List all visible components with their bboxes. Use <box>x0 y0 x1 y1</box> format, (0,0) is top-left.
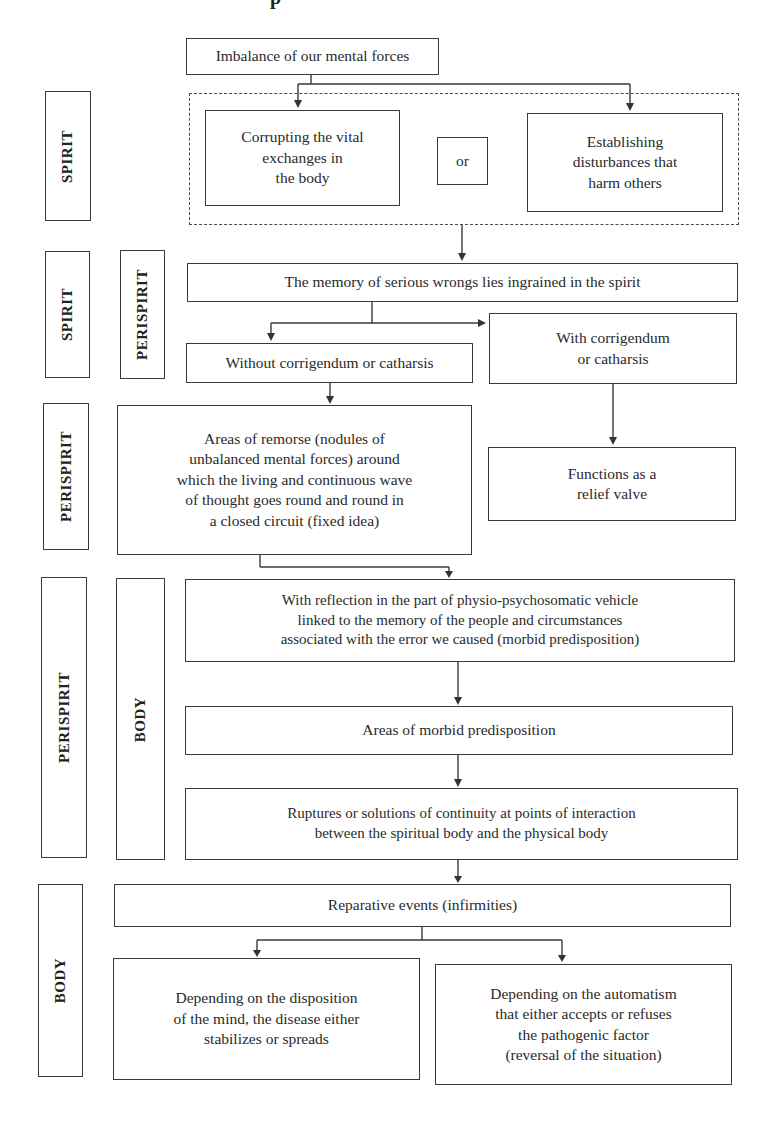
node-automatism: Depending on the automatism that either … <box>435 964 732 1085</box>
node-text-line: Corrupting the vital <box>241 127 363 147</box>
node-establishing: Establishing disturbances that harm othe… <box>527 113 723 212</box>
node-text-line: or catharsis <box>577 349 648 369</box>
layer-label-perispirit: PERISPIRIT <box>41 577 87 858</box>
page-heading-fragment: p <box>270 0 281 9</box>
node-text-line: the pathogenic factor <box>518 1025 649 1045</box>
node-ruptures: Ruptures or solutions of continuity at p… <box>185 788 738 860</box>
node-reparative-events: Reparative events (infirmities) <box>114 884 731 927</box>
node-with-corrigendum: With corrigendum or catharsis <box>489 313 737 384</box>
node-text-line: relief valve <box>577 484 647 504</box>
node-areas-of-remorse: Areas of remorse (nodules of unbalanced … <box>117 405 472 555</box>
node-text-line: that either accepts or refuses <box>495 1004 671 1024</box>
layer-label-spirit: SPIRIT <box>45 251 90 378</box>
layer-label-perispirit: PERISPIRIT <box>43 403 89 550</box>
node-text-line: associated with the error we caused (mor… <box>281 630 640 650</box>
node-text-line: exchanges in <box>262 148 342 168</box>
layer-label-text: SPIRIT <box>59 288 76 341</box>
layer-label-body: BODY <box>38 884 83 1077</box>
layer-label-text: PERISPIRIT <box>56 672 73 763</box>
node-text: Reparative events (infirmities) <box>328 895 517 915</box>
node-text-line: Areas of remorse (nodules of <box>204 429 385 449</box>
node-disposition-of-mind: Depending on the disposition of the mind… <box>113 958 420 1080</box>
node-morbid-predisposition: Areas of morbid predisposition <box>185 706 733 755</box>
node-text-line: of thought goes round and round in <box>185 490 404 510</box>
layer-label-body: BODY <box>116 578 165 860</box>
layer-label-text: PERISPIRIT <box>58 431 75 522</box>
node-text-line: (reversal of the situation) <box>505 1045 661 1065</box>
node-text-line: Depending on the automatism <box>490 984 676 1004</box>
node-imbalance: Imbalance of our mental forces <box>186 38 439 75</box>
node-or: or <box>437 137 488 185</box>
layer-label-perispirit: PERISPIRIT <box>120 250 165 379</box>
node-corrupting: Corrupting the vital exchanges in the bo… <box>205 110 400 206</box>
layer-label-text: PERISPIRIT <box>134 269 151 360</box>
node-reflection: With reflection in the part of physio-ps… <box>185 579 735 662</box>
node-text-line: Establishing <box>587 132 664 152</box>
node-text-line: a closed circuit (fixed idea) <box>210 511 380 531</box>
node-text-line: between the spiritual body and the physi… <box>315 824 609 844</box>
node-text: Without corrigendum or catharsis <box>225 353 433 373</box>
node-text-line: Functions as a <box>568 464 657 484</box>
node-text-line: Ruptures or solutions of continuity at p… <box>287 804 635 824</box>
node-text-line: harm others <box>588 173 662 193</box>
node-text-line: Depending on the disposition <box>175 988 357 1008</box>
node-relief-valve: Functions as a relief valve <box>488 447 736 521</box>
layer-label-text: SPIRIT <box>60 129 77 182</box>
node-text-line: With reflection in the part of physio-ps… <box>282 591 638 611</box>
node-text: Areas of morbid predisposition <box>362 720 555 740</box>
node-text-line: which the living and continuous wave <box>177 470 412 490</box>
node-text: Imbalance of our mental forces <box>216 46 410 66</box>
layer-label-text: BODY <box>132 696 149 741</box>
node-text-line: of the mind, the disease either <box>174 1009 360 1029</box>
node-text-line: unbalanced mental forces) around <box>189 449 399 469</box>
node-text-line: disturbances that <box>573 152 678 172</box>
node-text-line: With corrigendum <box>556 328 669 348</box>
node-text: The memory of serious wrongs lies ingrai… <box>284 272 640 292</box>
node-text-line: linked to the memory of the people and c… <box>298 611 623 631</box>
node-text-line: stabilizes or spreads <box>204 1029 329 1049</box>
node-memory: The memory of serious wrongs lies ingrai… <box>187 263 738 302</box>
node-without-corrigendum: Without corrigendum or catharsis <box>186 343 473 383</box>
layer-label-text: BODY <box>52 958 69 1003</box>
node-text: or <box>456 151 469 171</box>
node-text-line: the body <box>276 168 330 188</box>
layer-label-spirit: SPIRIT <box>45 91 91 221</box>
